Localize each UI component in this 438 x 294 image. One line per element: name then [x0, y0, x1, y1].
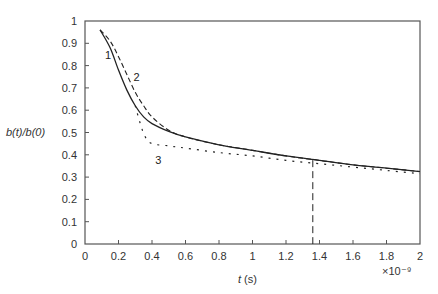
curve-label-2: 2	[134, 71, 140, 83]
x-tick-label: 1.2	[278, 250, 293, 262]
curve-label-1: 1	[105, 49, 111, 61]
x-tick-label: 0.4	[144, 250, 159, 262]
plot-frame	[85, 21, 420, 244]
y-axis-label: b(t)/b(0)	[6, 126, 45, 138]
y-tick-label: 0.1	[62, 216, 77, 228]
x-tick-label: 1.6	[345, 250, 360, 262]
x-tick-label: 0.6	[178, 250, 193, 262]
annotations: 123	[105, 49, 313, 244]
curves	[100, 30, 420, 174]
y-tick-label: 0.5	[62, 127, 77, 139]
curve-3	[135, 106, 420, 174]
curve-1	[100, 30, 420, 172]
x-tick-label: 0	[82, 250, 88, 262]
y-tick-label: 0.2	[62, 193, 77, 205]
y-tick-label: 0.7	[62, 82, 77, 94]
plot-border	[85, 21, 420, 244]
x-axis-ticks: 00.20.40.60.811.21.41.61.82	[82, 240, 423, 262]
y-tick-label: 1	[71, 15, 77, 27]
y-tick-label: 0.8	[62, 60, 77, 72]
line-chart: 00.10.20.30.40.50.60.70.80.91 00.20.40.6…	[0, 0, 438, 294]
x-axis-label-unit: (s)	[241, 273, 257, 285]
x-tick-label: 1.4	[312, 250, 327, 262]
curve-2	[100, 30, 420, 172]
x-tick-label: 1.8	[379, 250, 394, 262]
y-tick-label: 0	[71, 238, 77, 250]
x-axis-label: t (s)	[238, 273, 257, 285]
y-tick-label: 0.3	[62, 171, 77, 183]
curve-label-3: 3	[155, 154, 161, 166]
x-tick-label: 0.8	[211, 250, 226, 262]
y-tick-label: 0.9	[62, 37, 77, 49]
y-tick-label: 0.4	[62, 149, 77, 161]
x-tick-label: 2	[417, 250, 423, 262]
x-axis-multiplier: ×10⁻⁹	[382, 265, 411, 277]
x-tick-label: 1	[249, 250, 255, 262]
x-tick-label: 0.2	[111, 250, 126, 262]
y-tick-label: 0.6	[62, 104, 77, 116]
